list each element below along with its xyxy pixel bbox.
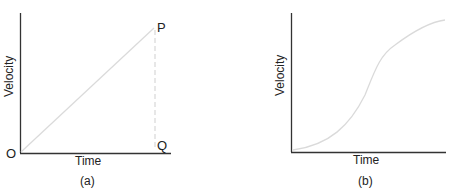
figure-a-point-p-label: P bbox=[157, 22, 166, 34]
figure-a-point-q-label: Q bbox=[157, 140, 167, 152]
figure-b-s-curve bbox=[293, 20, 445, 150]
figure-a-origin-label: O bbox=[6, 148, 16, 160]
diagram-canvas bbox=[0, 0, 453, 194]
figure-a-caption: (a) bbox=[80, 175, 95, 187]
figure-b-ylabel: Velocity bbox=[273, 50, 287, 96]
figure-b-caption: (b) bbox=[358, 175, 373, 187]
figure-b-xlabel: Time bbox=[353, 154, 379, 166]
figure-a-ylabel: Velocity bbox=[2, 51, 16, 97]
figure-b-axes bbox=[291, 13, 446, 153]
figure-a-line-op bbox=[21, 28, 154, 152]
figure-a-xlabel: Time bbox=[75, 155, 101, 167]
